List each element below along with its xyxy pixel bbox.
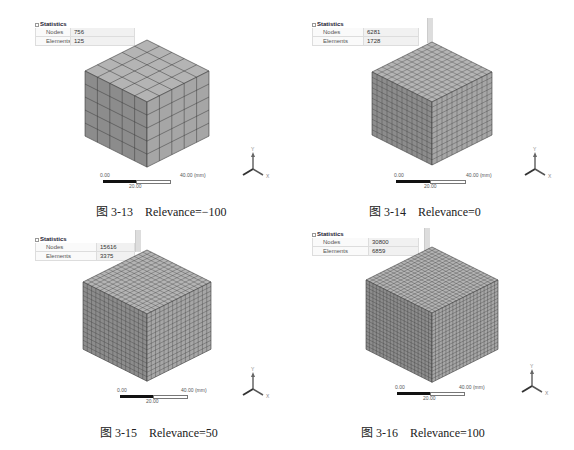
axis-triad-icon: Y X	[515, 145, 555, 185]
scale-mid: 20.00	[423, 395, 436, 401]
figure-3-14: Statistics Nodes6281 Elements1728 0.00 4…	[287, 0, 574, 225]
scale-end: 40.00 (mm)	[181, 387, 207, 393]
svg-text:X: X	[266, 173, 270, 179]
scale-start: 0.00	[117, 387, 127, 393]
svg-text:Y: Y	[251, 366, 255, 372]
scale-start: 0.00	[100, 172, 110, 178]
figure-3-13: Statistics Nodes756 Elements125 0.00 40.…	[0, 0, 287, 225]
svg-text:Y: Y	[251, 146, 255, 152]
figure-3-15: Statistics Nodes15616 Elements3375 0.00 …	[0, 225, 287, 450]
scale-start: 0.00	[395, 384, 405, 390]
scale-end: 40.00 (mm)	[180, 172, 206, 178]
mesh-cube	[0, 225, 287, 450]
axis-triad-icon: Y X	[512, 362, 552, 402]
figure-caption: 图 3-16 Relevance=100	[361, 423, 485, 441]
svg-text:Y: Y	[530, 363, 534, 369]
scale-end: 40.00 (mm)	[459, 384, 485, 390]
svg-text:X: X	[266, 393, 270, 399]
mesh-cube	[287, 0, 574, 225]
svg-text:X: X	[548, 173, 552, 179]
scale-end: 40.00 (mm)	[466, 172, 492, 178]
svg-text:X: X	[545, 390, 549, 396]
figure-3-16: Statistics Nodes30800 Elements6859 0.00 …	[287, 225, 574, 450]
scale-mid: 20.00	[146, 398, 159, 404]
svg-text:Y: Y	[533, 146, 537, 152]
axis-triad-icon: Y X	[233, 365, 273, 405]
figure-caption: 图 3-14 Relevance=0	[369, 202, 481, 220]
scale-start: 0.00	[394, 172, 404, 178]
mesh-cube	[0, 0, 287, 225]
figure-caption: 图 3-15 Relevance=50	[100, 423, 218, 441]
axis-triad-icon: Y X	[233, 145, 273, 185]
mesh-cube	[287, 225, 574, 450]
figure-caption: 图 3-13 Relevance=−100	[96, 202, 227, 220]
scale-mid: 20.00	[129, 183, 142, 189]
scale-mid: 20.00	[424, 183, 437, 189]
